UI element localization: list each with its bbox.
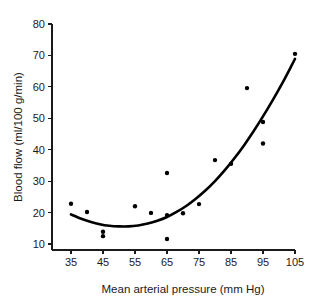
data-point [245,86,249,90]
data-point [165,171,169,175]
data-point [133,204,137,208]
x-tick-label: 65 [161,256,173,268]
y-tick-label: 20 [33,207,45,219]
y-tick-label: 50 [33,112,45,124]
y-tick-label: 10 [33,238,45,250]
y-axis: 1020304050607080 [33,18,52,250]
x-axis-title: Mean arterial pressure (mm Hg) [102,283,265,295]
y-tick-label: 40 [33,144,45,156]
data-point [181,211,185,215]
data-point [293,52,297,56]
x-tick-label: 55 [129,256,141,268]
data-point [213,158,217,162]
data-point [85,210,89,214]
data-point [197,202,201,206]
x-tick-label: 95 [257,256,269,268]
data-point [149,211,153,215]
data-point [101,234,105,238]
x-axis: 35455565758595105 [52,250,304,268]
x-tick-label: 35 [65,256,77,268]
data-point [165,237,169,241]
x-tick-label: 45 [97,256,109,268]
y-tick-label: 80 [33,18,45,30]
data-point [101,230,105,234]
chart-figure: 1020304050607080 35455565758595105 Mean … [0,0,320,302]
x-tick-label: 105 [286,256,304,268]
y-tick-label: 70 [33,49,45,61]
y-tick-label: 30 [33,175,45,187]
data-point [69,202,73,206]
x-tick-label: 75 [193,256,205,268]
data-point [261,141,265,145]
y-axis-title: Blood flow (ml/100 g/min) [12,72,24,202]
data-points [69,52,297,242]
x-tick-label: 85 [225,256,237,268]
scatter-plot: 1020304050607080 35455565758595105 Mean … [0,0,320,302]
y-tick-label: 60 [33,81,45,93]
